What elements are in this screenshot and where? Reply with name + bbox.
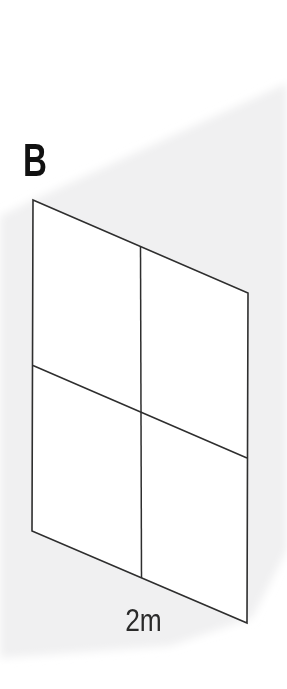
- figure-b-diagram: B 2m: [0, 0, 287, 689]
- figure-label: B: [23, 137, 47, 183]
- dimension-label: 2m: [116, 605, 171, 636]
- diagram-drawing: [0, 0, 287, 689]
